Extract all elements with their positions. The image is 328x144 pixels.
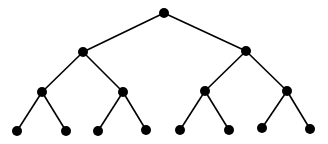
tree-edge (42, 52, 83, 92)
tree-edges (17, 13, 310, 131)
tree-edge (83, 52, 123, 92)
tree-node (118, 87, 128, 97)
tree-node (305, 124, 315, 134)
tree-node (78, 47, 88, 57)
tree-node (93, 126, 103, 136)
tree-node (175, 125, 185, 135)
tree-node (159, 8, 169, 18)
tree-node (241, 46, 251, 56)
tree-edge (205, 51, 246, 91)
tree-node (200, 86, 210, 96)
tree-edge (17, 92, 42, 131)
tree-edge (164, 13, 246, 51)
tree-node (257, 123, 267, 133)
tree-edge (246, 51, 287, 91)
tree-node (224, 125, 234, 135)
binary-tree-diagram (0, 0, 328, 144)
tree-edge (180, 91, 205, 130)
tree-node (12, 126, 22, 136)
tree-node (141, 125, 151, 135)
tree-edge (42, 92, 66, 131)
tree-node (37, 87, 47, 97)
tree-node (282, 86, 292, 96)
tree-edge (83, 13, 164, 52)
tree-edge (98, 92, 123, 131)
tree-edge (287, 91, 310, 129)
tree-edge (262, 91, 287, 128)
tree-node (61, 126, 71, 136)
tree-edge (123, 92, 146, 130)
tree-edge (205, 91, 229, 130)
